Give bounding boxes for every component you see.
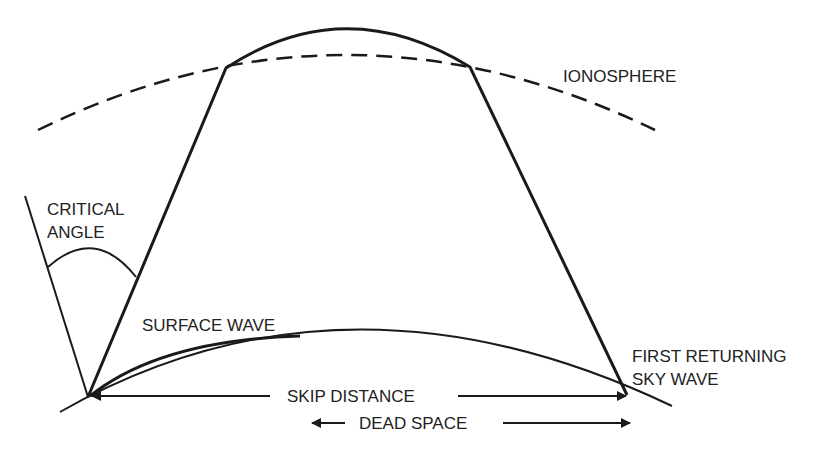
skywave-diagram: IONOSPHERE CRITICAL ANGLE SURFACE WAVE F…: [0, 0, 831, 453]
surface-wave-label: SURFACE WAVE: [142, 315, 275, 336]
skip-distance-label: SKIP DISTANCE: [287, 386, 415, 407]
critical-angle-arc: [48, 248, 136, 277]
dead-space-label: DEAD SPACE: [359, 413, 467, 434]
ionosphere-label: IONOSPHERE: [563, 66, 676, 87]
critical-angle-label-2: ANGLE: [47, 222, 105, 243]
first-returning-label-1: FIRST RETURNING: [632, 346, 787, 367]
critical-angle-label-1: CRITICAL: [47, 199, 124, 220]
sky-wave-path: [88, 29, 627, 397]
surface-wave: [90, 336, 300, 396]
first-returning-label-2: SKY WAVE: [632, 369, 719, 390]
